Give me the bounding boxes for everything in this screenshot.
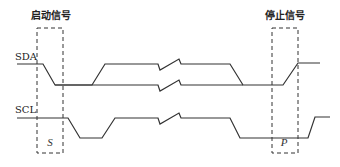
stop-condition-box — [272, 28, 298, 153]
sda-label: SDA — [15, 51, 38, 62]
sda-waveform-lower — [55, 80, 243, 91]
stop-signal-title: 停止信号 — [265, 9, 305, 21]
i2c-timing-diagram: 启动信号 停止信号 SDA SCL S P — [0, 0, 340, 167]
start-marker-s: S — [47, 136, 53, 148]
sda-waveform-upper — [17, 59, 320, 85]
scl-waveform — [17, 113, 330, 138]
start-condition-box — [37, 28, 63, 153]
start-signal-title: 启动信号 — [31, 9, 71, 21]
scl-label: SCL — [15, 104, 37, 115]
stop-marker-p: P — [280, 136, 288, 148]
